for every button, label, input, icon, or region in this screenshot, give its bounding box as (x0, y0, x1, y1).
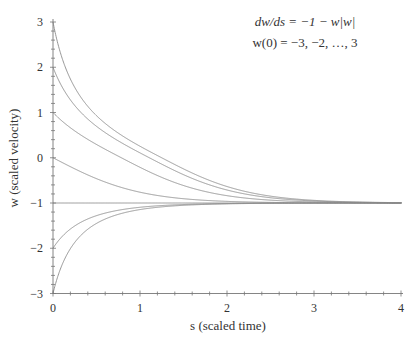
y-tick-label: −1 (30, 196, 43, 210)
solution-curves (53, 22, 401, 294)
x-tick-label: 3 (311, 301, 317, 315)
solution-curve (53, 113, 401, 203)
y-tick-label: −2 (30, 241, 43, 255)
x-tick-label: 4 (398, 301, 404, 315)
y-tick-label: 2 (37, 60, 43, 74)
y-axis-label: w (scaled velocity) (6, 109, 21, 208)
y-tick-label: 3 (37, 15, 43, 29)
title-line-2: w(0) = −3, −2, …, 3 (252, 35, 357, 50)
title-line-1: dw/ds = −1 − w|w| (255, 14, 356, 29)
solution-curve (53, 158, 401, 203)
axes: 3210−1−2−301234 (30, 15, 404, 315)
solution-curve (53, 203, 401, 248)
chart: 3210−1−2−301234 dw/ds = −1 − w|w| w(0) =… (0, 0, 415, 344)
y-tick-label: −3 (30, 287, 43, 301)
solution-curve (53, 203, 401, 293)
x-tick-label: 1 (137, 301, 143, 315)
x-tick-label: 0 (50, 301, 56, 315)
x-tick-label: 2 (224, 301, 230, 315)
x-axis-label: s (scaled time) (190, 318, 266, 333)
y-tick-label: 1 (37, 106, 43, 120)
y-tick-label: 0 (37, 151, 43, 165)
